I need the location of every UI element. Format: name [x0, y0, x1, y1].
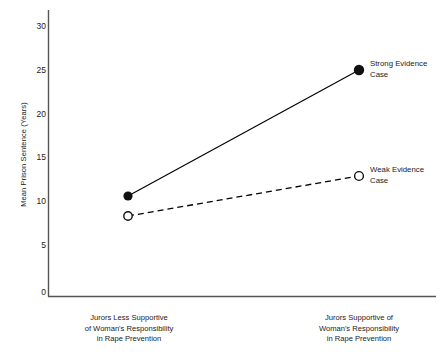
weak-evidence-line	[128, 176, 359, 216]
series-label-strong-evidence: Strong Evidence Case	[370, 59, 427, 80]
strong-evidence-line	[128, 70, 359, 196]
series-label-weak-evidence: Weak Evidence Case	[370, 165, 424, 186]
x-axis-label-left: Jurors Less Supportive of Woman's Respon…	[58, 313, 200, 345]
weak-evidence-point-right	[355, 172, 364, 181]
x-axis-label-right: Jurors Supportive of Woman's Responsibil…	[288, 313, 430, 345]
strong-evidence-point-left	[123, 191, 132, 200]
chart-container: Mean Prison Sentence (Years) 30 25 20 15…	[0, 0, 446, 359]
strong-evidence-point-right	[354, 65, 364, 75]
weak-evidence-point-left	[124, 212, 132, 220]
